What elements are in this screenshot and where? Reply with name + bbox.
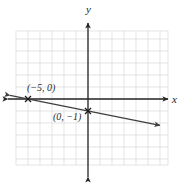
coordinate-graph-figure: y x (−5, 0) (0, −1) <box>0 0 184 184</box>
plotted-line <box>10 95 160 125</box>
x-axis-label: x <box>172 94 177 105</box>
point-label-minus5-0: (−5, 0) <box>27 83 55 93</box>
y-axis-label: y <box>86 4 91 15</box>
point-label-0-minus1: (0, −1) <box>53 112 81 122</box>
grid-lines <box>16 31 168 165</box>
